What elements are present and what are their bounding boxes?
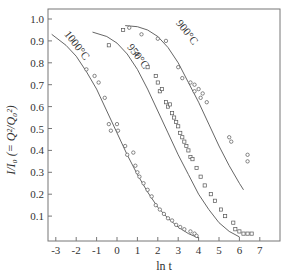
data-point	[219, 208, 222, 211]
series-label: 900°C	[174, 17, 201, 47]
data-point	[142, 182, 145, 185]
y-tick-label: 0.1	[30, 210, 44, 222]
y-tick-label: 0.2	[30, 188, 44, 200]
data-point	[170, 112, 173, 115]
x-tick-label: 0	[114, 244, 120, 256]
data-point	[213, 199, 216, 202]
y-axis: 0.10.20.30.40.50.60.70.80.91.0	[30, 13, 52, 222]
y-axis-label: I/I₀ (= Q²/Q₀²)	[4, 105, 18, 176]
data-point	[170, 219, 173, 222]
chart: 0.10.20.30.40.50.60.70.80.91.0 -3-2-1012…	[0, 0, 292, 275]
data-point	[234, 228, 237, 231]
data-point	[246, 232, 249, 235]
x-tick-label: -2	[72, 244, 81, 256]
y-tick-label: 0.6	[30, 101, 44, 113]
data-point	[132, 151, 135, 154]
data-point	[116, 129, 119, 132]
data-point	[203, 184, 206, 187]
data-point	[195, 166, 198, 169]
data-point	[189, 230, 192, 233]
series-label: 950°C	[125, 41, 152, 71]
y-tick-label: 0.9	[30, 35, 44, 47]
y-tick-label: 0.3	[30, 166, 44, 178]
y-tick-label: 0.8	[30, 57, 44, 69]
y-tick-label: 0.4	[30, 144, 44, 156]
data-point	[238, 230, 241, 233]
fit-curve	[52, 34, 199, 238]
data-point	[199, 96, 202, 99]
data-point	[140, 33, 143, 36]
data-point	[183, 140, 186, 143]
fit-curve	[125, 26, 243, 190]
x-tick-label: 1	[135, 244, 141, 256]
y-tick-label: 0.7	[30, 79, 44, 91]
data-point	[136, 171, 139, 174]
data-point	[122, 28, 125, 31]
x-tick-label: 4	[196, 244, 202, 256]
data-point	[97, 81, 100, 84]
data-point	[156, 81, 159, 84]
data-point	[154, 203, 157, 206]
data-point	[164, 39, 167, 42]
series-label: 1000°C	[62, 28, 92, 62]
data-point	[209, 193, 212, 196]
data-point	[177, 125, 180, 128]
data-point	[107, 122, 110, 125]
data-point	[205, 101, 208, 104]
data-point	[230, 140, 233, 143]
data-point	[174, 223, 177, 226]
data-point	[93, 74, 96, 77]
data-point	[103, 96, 106, 99]
x-tick-label: -3	[51, 244, 61, 256]
data-point	[107, 44, 110, 47]
data-point	[162, 212, 165, 215]
data-point	[195, 234, 198, 237]
data-points	[85, 26, 254, 237]
data-point	[199, 175, 202, 178]
x-tick-label: 3	[175, 244, 181, 256]
data-point	[191, 158, 194, 161]
series-labels: 1000°C950°C900°C	[62, 17, 201, 71]
data-point	[181, 136, 184, 139]
data-point	[246, 153, 249, 156]
data-point	[228, 136, 231, 139]
data-point	[134, 164, 137, 167]
x-tick-label: 7	[257, 244, 263, 256]
data-point	[158, 208, 161, 211]
data-point	[246, 160, 249, 163]
data-point	[201, 92, 204, 95]
data-point	[160, 87, 163, 90]
data-point	[109, 129, 112, 132]
data-point	[179, 225, 182, 228]
y-tick-label: 0.5	[30, 123, 44, 135]
data-point	[193, 83, 196, 86]
data-point	[193, 90, 196, 93]
y-tick-label: 1.0	[30, 13, 44, 25]
fit-curve	[93, 32, 240, 237]
data-point	[150, 195, 153, 198]
x-axis-label: ln t	[156, 259, 172, 273]
data-point	[85, 68, 88, 71]
data-point	[224, 215, 227, 218]
data-point	[242, 232, 245, 235]
data-point	[173, 116, 176, 119]
data-point	[197, 87, 200, 90]
data-point	[154, 74, 157, 77]
data-point	[128, 26, 131, 29]
data-point	[181, 76, 184, 79]
data-point	[166, 217, 169, 220]
data-point	[164, 101, 167, 104]
data-point	[189, 81, 192, 84]
x-tick-label: 2	[155, 244, 161, 256]
x-tick-label: -1	[92, 244, 101, 256]
data-point	[123, 144, 126, 147]
x-tick-label: 5	[216, 244, 222, 256]
data-point	[146, 188, 149, 191]
data-point	[156, 37, 159, 40]
data-point	[126, 153, 129, 156]
data-point	[185, 144, 188, 147]
x-axis: -3-2-101234567	[51, 237, 263, 256]
data-point	[183, 228, 186, 231]
data-point	[138, 175, 141, 178]
data-point	[232, 221, 235, 224]
